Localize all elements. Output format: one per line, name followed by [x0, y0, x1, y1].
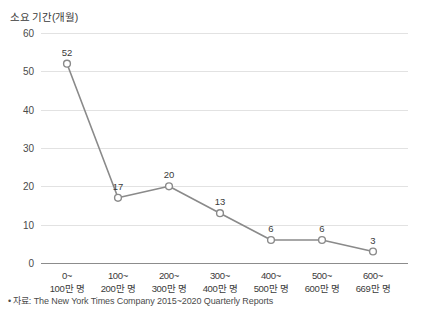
data-label-6: 3 — [370, 235, 375, 246]
chart-container: 소요 기간(개월) 0102030405060 0~100만 명100~200만… — [0, 0, 423, 311]
data-point-0[interactable] — [64, 60, 71, 67]
x-tick-label-2: 200~300만 명 — [140, 269, 198, 295]
x-tick-label-6: 600~669만 명 — [344, 269, 402, 295]
x-tick-line2-6: 669만 명 — [344, 282, 402, 295]
x-tick-label-0: 0~100만 명 — [38, 269, 96, 295]
data-point-2[interactable] — [166, 183, 173, 190]
series-line-chart — [41, 33, 408, 263]
x-tick-line1-2: 200~ — [140, 269, 198, 282]
footnote-text: 자료: The New York Times Company 2015~2020… — [13, 296, 273, 306]
x-tick-line1-0: 0~ — [38, 269, 96, 282]
plot-area — [41, 33, 408, 263]
x-tick-line1-4: 400~ — [242, 269, 300, 282]
data-point-4[interactable] — [268, 237, 275, 244]
data-label-1: 17 — [113, 181, 124, 192]
data-point-3[interactable] — [217, 210, 224, 217]
y-tick-label-10: 10 — [6, 219, 34, 230]
x-tick-label-4: 400~500만 명 — [242, 269, 300, 295]
x-tick-line1-1: 100~ — [89, 269, 147, 282]
y-tick-label-0: 0 — [6, 258, 34, 269]
y-tick-label-40: 40 — [6, 104, 34, 115]
data-point-1[interactable] — [115, 194, 122, 201]
source-footnote: •자료: The New York Times Company 2015~202… — [8, 294, 273, 307]
x-tick-line1-6: 600~ — [344, 269, 402, 282]
data-label-4: 6 — [268, 223, 273, 234]
footnote-bullet: • — [8, 296, 11, 306]
y-tick-label-60: 60 — [6, 28, 34, 39]
data-label-0: 52 — [62, 47, 73, 58]
gridline-0 — [41, 263, 408, 264]
x-tick-label-1: 100~200만 명 — [89, 269, 147, 295]
series-markers — [64, 60, 377, 255]
x-tick-line2-5: 600만 명 — [293, 282, 351, 295]
chart-title: 소요 기간(개월) — [10, 9, 78, 24]
x-tick-label-5: 500~600만 명 — [293, 269, 351, 295]
data-point-6[interactable] — [370, 248, 377, 255]
data-label-5: 6 — [319, 223, 324, 234]
y-tick-label-20: 20 — [6, 181, 34, 192]
x-tick-line1-3: 300~ — [191, 269, 249, 282]
x-tick-line1-5: 500~ — [293, 269, 351, 282]
data-label-3: 13 — [215, 196, 226, 207]
data-label-2: 20 — [164, 169, 175, 180]
series-polyline — [67, 64, 373, 252]
y-tick-label-50: 50 — [6, 66, 34, 77]
y-tick-label-30: 30 — [6, 143, 34, 154]
x-tick-label-3: 300~400만 명 — [191, 269, 249, 295]
data-point-5[interactable] — [319, 237, 326, 244]
